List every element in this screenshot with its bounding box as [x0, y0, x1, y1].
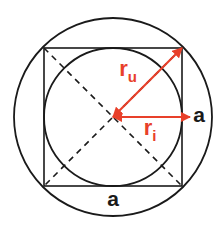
label-inradius: ri [144, 115, 157, 144]
figure-canvas: ru ri a a [0, 0, 221, 230]
label-circumradius: ru [119, 56, 137, 85]
label-circumradius-subscript: u [128, 68, 137, 85]
label-side-length-right: a [193, 103, 205, 126]
label-side-length-bottom: a [107, 187, 119, 210]
geometry-figure: ru ri a a [0, 0, 221, 230]
label-inradius-subscript: i [152, 127, 156, 144]
